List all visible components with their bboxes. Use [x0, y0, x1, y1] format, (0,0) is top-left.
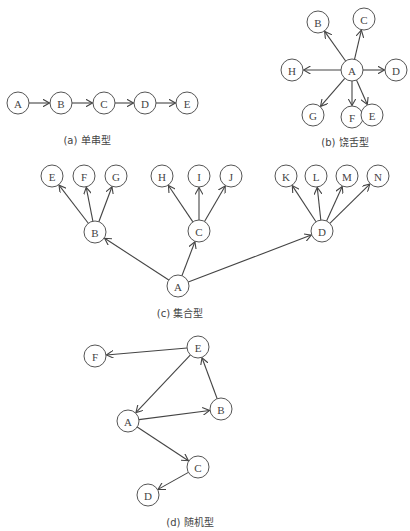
svg-text:C: C: [194, 462, 201, 474]
svg-text:A: A: [14, 98, 22, 110]
edge-b-A-E: [356, 80, 367, 104]
svg-text:A: A: [348, 65, 356, 77]
node-d-A: A: [117, 410, 139, 432]
svg-text:E: E: [369, 110, 376, 122]
svg-text:H: H: [288, 65, 296, 77]
node-c-E: E: [41, 165, 63, 187]
node-a-E: E: [176, 92, 198, 114]
node-c-N: N: [367, 165, 389, 187]
svg-text:D: D: [144, 490, 152, 502]
node-b-F: F: [341, 106, 363, 128]
svg-text:E: E: [195, 342, 202, 354]
node-c-F: F: [73, 165, 95, 187]
edge-d-E-A: [136, 355, 191, 413]
edge-c-D-L: [317, 187, 321, 220]
svg-text:B: B: [217, 404, 224, 416]
edge-c-C-H: [168, 186, 192, 222]
svg-text:G: G: [309, 110, 317, 122]
node-c-D: D: [311, 220, 333, 242]
node-c-A: A: [167, 275, 189, 297]
node-c-C: C: [188, 220, 210, 242]
edge-d-C-D: [158, 472, 188, 489]
node-c-G: G: [105, 165, 127, 187]
svg-text:D: D: [392, 65, 400, 77]
diagram-canvas: ABCDEABCHDGFEEFGBHIJCKLMNDAFEABCD: [0, 0, 410, 531]
svg-text:D: D: [141, 98, 149, 110]
edge-d-A-C: [137, 427, 188, 461]
edge-c-C-J: [205, 186, 226, 222]
node-b-H: H: [281, 59, 303, 81]
node-d-C: C: [187, 456, 209, 478]
svg-text:F: F: [92, 351, 98, 363]
svg-text:C: C: [100, 98, 107, 110]
svg-text:F: F: [81, 171, 87, 183]
caption-d: (d) 随机型: [166, 514, 213, 529]
node-a-A: A: [7, 92, 29, 114]
svg-text:C: C: [195, 226, 202, 238]
node-d-D: D: [137, 484, 159, 506]
node-d-E: E: [187, 336, 209, 358]
edges-layer: [29, 30, 385, 489]
svg-text:I: I: [197, 171, 201, 183]
edge-b-A-C: [355, 30, 362, 59]
svg-text:B: B: [91, 227, 98, 239]
nodes-layer: ABCDEABCHDGFEEFGBHIJCKLMNDAFEABCD: [7, 8, 407, 506]
node-d-B: B: [210, 398, 232, 420]
node-c-M: M: [336, 165, 358, 187]
edge-c-A-B: [105, 238, 169, 280]
node-c-B: B: [84, 221, 106, 243]
svg-text:M: M: [342, 171, 352, 183]
edge-b-A-G: [321, 78, 345, 106]
node-b-A: A: [341, 59, 363, 81]
svg-text:A: A: [174, 281, 182, 293]
svg-text:C: C: [360, 14, 367, 26]
svg-text:L: L: [313, 171, 320, 183]
edge-c-D-M: [327, 186, 343, 221]
edge-d-B-E: [202, 358, 217, 399]
node-c-L: L: [305, 165, 327, 187]
svg-text:N: N: [374, 171, 382, 183]
edge-d-A-B: [139, 410, 210, 419]
caption-a: (a) 单串型: [63, 132, 110, 147]
caption-b: (b) 饶舌型: [321, 134, 368, 149]
svg-text:E: E: [184, 98, 191, 110]
edge-c-A-C: [182, 242, 195, 276]
node-c-I: I: [188, 165, 210, 187]
edge-b-A-B: [325, 31, 346, 61]
svg-text:E: E: [49, 171, 56, 183]
node-a-C: C: [93, 92, 115, 114]
svg-text:D: D: [318, 226, 326, 238]
node-d-F: F: [84, 345, 106, 367]
edge-c-B-G: [99, 187, 112, 222]
svg-text:H: H: [158, 171, 166, 183]
node-b-D: D: [385, 59, 407, 81]
node-a-B: B: [50, 92, 72, 114]
node-b-B: B: [307, 11, 329, 33]
node-c-K: K: [275, 165, 297, 187]
caption-c: (c) 集合型: [157, 305, 203, 320]
edge-c-A-D: [188, 235, 311, 282]
svg-text:K: K: [282, 171, 290, 183]
node-c-H: H: [151, 165, 173, 187]
svg-text:F: F: [349, 112, 355, 124]
node-a-D: D: [134, 92, 156, 114]
svg-text:A: A: [124, 416, 132, 428]
edge-c-D-K: [292, 186, 316, 222]
svg-text:B: B: [314, 17, 321, 29]
edge-c-D-N: [330, 184, 370, 223]
node-b-G: G: [302, 104, 324, 126]
node-b-C: C: [353, 8, 375, 30]
edge-c-B-E: [59, 185, 88, 223]
svg-text:G: G: [112, 171, 120, 183]
node-b-E: E: [361, 104, 383, 126]
svg-text:B: B: [57, 98, 64, 110]
edge-c-B-F: [86, 187, 93, 221]
edge-d-E-F: [106, 348, 187, 355]
node-c-J: J: [220, 165, 242, 187]
svg-text:J: J: [229, 171, 234, 183]
